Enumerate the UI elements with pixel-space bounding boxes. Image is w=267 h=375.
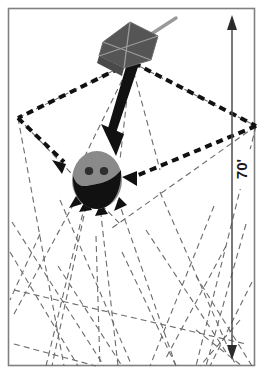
dimension-arrow-top bbox=[227, 15, 237, 30]
diagram-canvas: 70' bbox=[0, 0, 267, 375]
reflected-arrowhead-right bbox=[122, 171, 137, 186]
reflected-path bbox=[18, 63, 256, 176]
dimension-arrow-bottom bbox=[227, 345, 237, 360]
target-head bbox=[72, 151, 122, 209]
dimension-label: 70' bbox=[233, 149, 251, 189]
diagram-svg bbox=[0, 0, 267, 375]
